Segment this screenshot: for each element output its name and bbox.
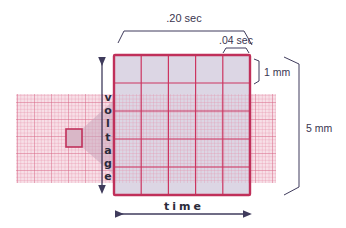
voltage-axis-letter: g	[104, 157, 112, 170]
voltage-axis-letter: v	[104, 91, 112, 104]
voltage-axis-letter: e	[104, 170, 111, 183]
small-box-voltage-label: 1 mm	[264, 66, 291, 78]
enlarged-grid	[114, 55, 250, 195]
voltage-axis-letter: a	[104, 144, 111, 157]
voltage-axis-letter: o	[104, 104, 112, 117]
small-box-time-bracket	[223, 48, 249, 53]
time-axis-label: time	[164, 200, 204, 213]
voltage-axis-letter: l	[106, 117, 110, 130]
small-box-voltage-bracket	[254, 59, 259, 84]
ecg-grid-diagram: .20 sec .04 sec 1 mm 5 mm voltage time	[0, 0, 346, 228]
big-box-voltage-label: 5 mm	[306, 122, 333, 134]
highlight-square	[66, 129, 82, 147]
voltage-axis-letter: t	[105, 131, 110, 144]
small-box-time-label: .04 sec	[219, 34, 253, 46]
big-box-time-label: .20 sec	[166, 12, 202, 24]
